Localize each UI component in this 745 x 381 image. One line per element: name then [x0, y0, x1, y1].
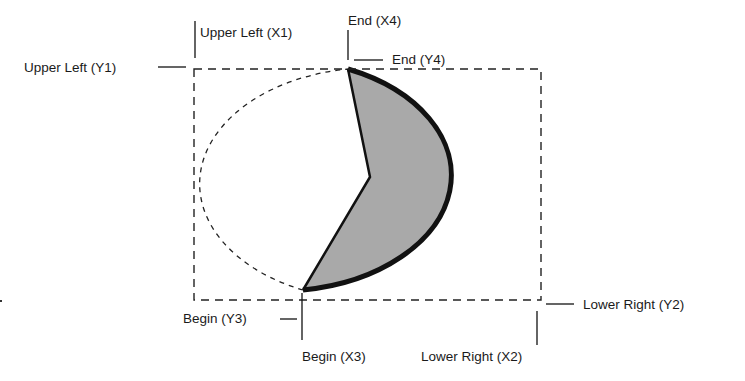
upper-left-x-label: Upper Left (X1)	[200, 25, 292, 40]
pie-wedge-fill	[303, 69, 451, 290]
end-y-label: End (Y4)	[392, 52, 445, 67]
lower-right-y-label: Lower Right (Y2)	[583, 297, 684, 312]
end-x-label: End (X4)	[348, 13, 401, 28]
begin-y-label: Begin (Y3)	[183, 311, 247, 326]
lower-right-x-label: Lower Right (X2)	[421, 349, 522, 364]
upper-left-y-label: Upper Left (Y1)	[24, 60, 116, 75]
stray-mark	[0, 300, 2, 302]
begin-x-label: Begin (X3)	[302, 349, 366, 364]
pie-geometry-diagram: Upper Left (X1) Upper Left (Y1) End (X4)…	[0, 0, 745, 381]
